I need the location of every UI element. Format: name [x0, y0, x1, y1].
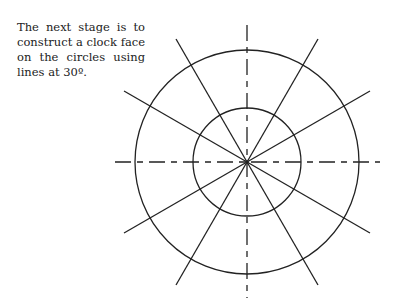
- center-point: [245, 160, 249, 164]
- clock-face-diagram: [0, 0, 393, 306]
